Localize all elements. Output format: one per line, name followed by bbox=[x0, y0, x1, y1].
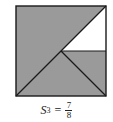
label-subscript: 3 bbox=[47, 106, 51, 115]
label-equals: = bbox=[55, 103, 62, 118]
fraction-denominator: 8 bbox=[67, 111, 72, 120]
area-label: S3 = 7 8 bbox=[0, 98, 113, 122]
square-diagram bbox=[0, 0, 113, 100]
label-fraction: 7 8 bbox=[65, 101, 72, 120]
fraction-numerator: 7 bbox=[67, 101, 72, 110]
